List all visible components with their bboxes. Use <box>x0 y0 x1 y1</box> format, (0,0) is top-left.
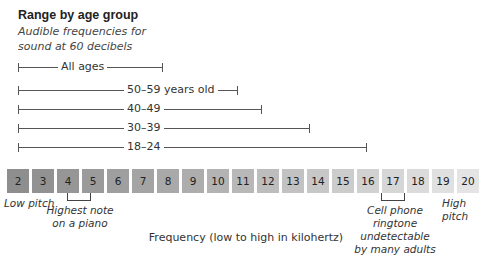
frequency-box: 8 <box>157 169 179 193</box>
range-start-cap <box>18 124 19 133</box>
chart-subtitle: Audible frequencies for sound at 60 deci… <box>18 24 158 54</box>
piano-note-line1: Highest note <box>40 204 120 217</box>
frequency-box: 20 <box>457 169 479 193</box>
ringtone-bracket <box>381 193 405 201</box>
piano-bracket <box>67 193 91 201</box>
range-line <box>18 147 367 148</box>
range-label: 18–24 <box>124 140 164 153</box>
age-range-bar: 18–24 <box>18 143 367 152</box>
frequency-box: 16 <box>357 169 379 193</box>
frequency-box: 11 <box>232 169 254 193</box>
range-label: All ages <box>58 60 107 73</box>
range-end-cap <box>366 143 367 152</box>
ringtone-note-line3: by many adults <box>340 243 450 256</box>
frequency-box: 6 <box>107 169 129 193</box>
range-label: 40–49 <box>124 102 164 115</box>
piano-note-line2: on a piano <box>40 217 120 230</box>
frequency-box: 12 <box>257 169 279 193</box>
frequency-box: 15 <box>332 169 354 193</box>
frequency-box: 14 <box>307 169 329 193</box>
range-start-cap <box>18 86 19 95</box>
frequency-box: 5 <box>82 169 104 193</box>
range-start-cap <box>18 63 19 72</box>
range-end-cap <box>261 105 262 114</box>
frequency-box: 10 <box>207 169 229 193</box>
high-pitch-note: High pitch <box>442 197 492 223</box>
range-label: 50–59 years old <box>124 83 218 96</box>
chart-title: Range by age group <box>18 8 138 22</box>
range-end-cap <box>309 124 310 133</box>
piano-note: Highest note on a piano <box>40 204 120 230</box>
frequency-box: 2 <box>7 169 29 193</box>
frequency-box: 18 <box>407 169 429 193</box>
range-line <box>18 128 310 129</box>
range-start-cap <box>18 105 19 114</box>
age-range-bar: 30–39 <box>18 124 310 133</box>
age-range-bar: All ages <box>18 63 163 72</box>
range-label: 30–39 <box>124 121 164 134</box>
frequency-box: 7 <box>132 169 154 193</box>
ringtone-note-line1: Cell phone <box>340 204 450 217</box>
age-range-bar: 50–59 years old <box>18 86 238 95</box>
range-start-cap <box>18 143 19 152</box>
frequency-box: 3 <box>32 169 54 193</box>
frequency-box: 19 <box>432 169 454 193</box>
ringtone-note: Cell phone ringtone undetectable by many… <box>340 204 450 256</box>
frequency-box: 17 <box>382 169 404 193</box>
frequency-box: 4 <box>57 169 79 193</box>
range-end-cap <box>162 63 163 72</box>
frequency-box: 9 <box>182 169 204 193</box>
range-end-cap <box>237 86 238 95</box>
age-range-bar: 40–49 <box>18 105 262 114</box>
frequency-box: 13 <box>282 169 304 193</box>
x-axis-label: Frequency (low to high in kilohertz) <box>0 231 492 244</box>
